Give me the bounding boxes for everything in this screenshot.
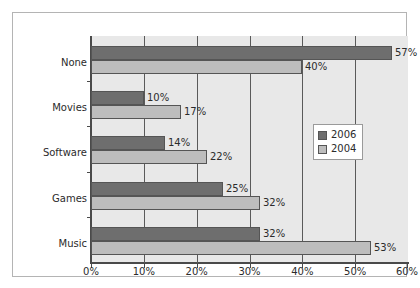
x-axis-label-20: 20% — [186, 267, 208, 277]
bar-label-none-2004: 40% — [305, 62, 327, 72]
x-axis-label-0: 0% — [83, 267, 99, 277]
bar-music-2006[interactable] — [91, 227, 260, 241]
bar-music-2004[interactable] — [91, 241, 371, 255]
bar-label-games-2006: 25% — [226, 184, 248, 194]
x-axis-label-60: 60% — [396, 267, 418, 277]
bar-none-2006[interactable] — [91, 46, 392, 60]
y-axis-label-games: Games — [52, 194, 87, 204]
y-axis-label-movies: Movies — [52, 103, 87, 113]
bar-movies-2004[interactable] — [91, 105, 181, 119]
figure-frame: None Movies Software Games Music — [12, 12, 407, 277]
bar-label-movies-2004: 17% — [184, 107, 206, 117]
y-axis-label-software: Software — [43, 148, 87, 158]
bar-software-2004[interactable] — [91, 150, 207, 164]
y-axis-label-music: Music — [59, 239, 87, 249]
x-axis-labels: 0% 10% 20% 30% 40% 50% 60% — [91, 267, 408, 283]
bar-group-music: 32% 53% — [91, 217, 408, 263]
bar-none-2004[interactable] — [91, 60, 302, 74]
bar-movies-2006[interactable] — [91, 91, 144, 105]
legend-swatch-2006-icon — [318, 131, 327, 140]
bar-group-movies: 10% 17% — [91, 81, 408, 126]
legend: 2006 2004 — [313, 124, 363, 160]
chart-figure: None Movies Software Games Music — [0, 0, 420, 288]
x-axis-label-50: 50% — [344, 267, 366, 277]
y-axis-labels: None Movies Software Games Music — [25, 36, 87, 263]
bar-label-games-2004: 32% — [263, 198, 285, 208]
legend-label-2004: 2004 — [331, 144, 356, 154]
bar-label-music-2004: 53% — [374, 243, 396, 253]
bar-games-2004[interactable] — [91, 196, 260, 210]
x-axis-label-40: 40% — [291, 267, 313, 277]
x-axis-label-30: 30% — [238, 267, 260, 277]
bar-label-software-2006: 14% — [168, 138, 190, 148]
legend-swatch-2004-icon — [318, 145, 327, 154]
legend-item-2006[interactable]: 2006 — [318, 128, 356, 142]
legend-item-2004[interactable]: 2004 — [318, 142, 356, 156]
bar-label-movies-2006: 10% — [147, 93, 169, 103]
bar-group-none: 57% 40% — [91, 36, 408, 81]
bar-label-music-2006: 32% — [263, 229, 285, 239]
x-axis-label-10: 10% — [133, 267, 155, 277]
bar-software-2006[interactable] — [91, 136, 165, 150]
y-axis-label-none: None — [61, 58, 87, 68]
bar-games-2006[interactable] — [91, 182, 223, 196]
bar-label-none-2006: 57% — [395, 48, 417, 58]
bar-group-games: 25% 32% — [91, 172, 408, 217]
legend-label-2006: 2006 — [331, 130, 356, 140]
bar-label-software-2004: 22% — [210, 152, 232, 162]
